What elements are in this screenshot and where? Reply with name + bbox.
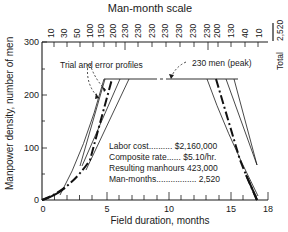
top-tick-label: 230 <box>174 24 184 38</box>
cost-summary: Labor cost.......... $2,160,000 Composit… <box>109 141 220 184</box>
svg-text:100: 100 <box>24 143 39 153</box>
total-label: Total <box>275 52 285 70</box>
svg-text:18: 18 <box>263 204 273 214</box>
svg-text:10: 10 <box>164 204 174 214</box>
svg-text:300: 300 <box>24 37 39 47</box>
top-tick-label: 230 <box>188 24 198 38</box>
top-tick-label: 200 <box>212 24 222 38</box>
top-tick-label: 40 <box>240 28 250 38</box>
top-tick-label: 230 <box>120 24 130 38</box>
x-axis-label: Field duration, months <box>111 215 210 226</box>
svg-text:0: 0 <box>40 204 45 214</box>
chart-title: Man-month scale <box>108 2 192 14</box>
man-months: Man-months................. 2,520 <box>109 174 220 184</box>
top-tick-label: 200 <box>108 24 118 38</box>
total-value: 2,520 <box>275 19 285 41</box>
y-tick-labels: 300 200 100 0 <box>24 37 39 205</box>
top-tick-label: 230 <box>147 24 157 38</box>
arrow-icon <box>169 74 174 79</box>
svg-text:15: 15 <box>226 204 236 214</box>
top-tick-label: 10 <box>46 28 56 38</box>
top-tick-label: 50 <box>72 28 82 38</box>
top-tick-label: 100 <box>85 24 95 38</box>
chart: Man-month scale 10 30 50 100 150 200 230… <box>0 0 288 232</box>
y-axis-label: Manpower density, number of men <box>4 37 15 190</box>
svg-text:0: 0 <box>34 195 39 205</box>
top-tick-label: 30 <box>59 28 69 38</box>
top-tick-label: 230 <box>133 24 143 38</box>
top-tick-label: 130 <box>226 24 236 38</box>
trial-profiles-label: Trial and error profiles <box>60 60 143 70</box>
top-tick-label: 150 <box>96 24 106 38</box>
composite-rate: Composite rate...... $5.10/hr. <box>109 152 216 162</box>
top-tick-label: 10 <box>254 28 264 38</box>
x-tick-labels: 0 5 10 15 18 <box>40 204 273 214</box>
top-tick-label: 230 <box>202 24 212 38</box>
y-ticks <box>42 42 47 174</box>
x-ticks <box>55 192 269 200</box>
peak-label: 230 men (peak) <box>192 58 252 68</box>
top-ticks <box>54 42 258 50</box>
top-axis-labels: 10 30 50 100 150 200 230 230 230 230 230… <box>46 24 264 38</box>
svg-text:200: 200 <box>24 90 39 100</box>
arrow-icon <box>95 93 99 99</box>
svg-text:5: 5 <box>104 204 109 214</box>
top-tick-label: 230 <box>160 24 170 38</box>
resulting-manhours: Resulting manhours 423,000 <box>109 163 218 173</box>
labor-cost: Labor cost.......... $2,160,000 <box>109 141 217 151</box>
